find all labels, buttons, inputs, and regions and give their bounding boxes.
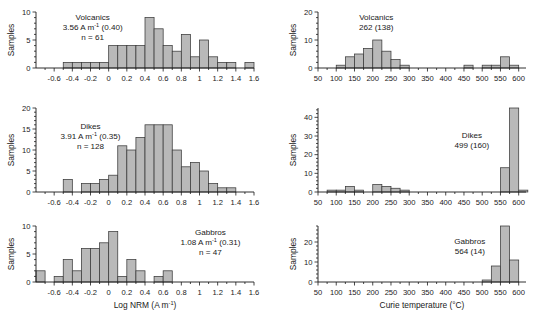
x-tick-label: 550 <box>494 288 507 297</box>
x-tick-label: 1.2 <box>212 74 223 83</box>
histogram-bar <box>72 271 81 282</box>
x-tick-label: 350 <box>421 288 434 297</box>
x-tick-label: 1.6 <box>249 288 260 297</box>
x-tick-label: 1.2 <box>212 288 223 297</box>
histogram-bar <box>63 260 72 282</box>
annotation-mean-value: 1.08 A m-1 (0.31) <box>180 237 240 247</box>
histogram-bar <box>345 57 354 68</box>
histogram-bar <box>109 232 118 282</box>
annotation-rock-type: Gabbros <box>454 237 485 246</box>
x-tick-label: -0.6 <box>48 198 61 207</box>
histogram-bar <box>91 248 100 282</box>
y-tick-label: 10 <box>304 169 312 178</box>
annotation-mean-value: 3.56 A m-1 (0.40) <box>63 22 123 32</box>
y-axis-title: Samples <box>6 24 16 57</box>
histogram-bar <box>100 62 109 68</box>
histogram-bar <box>209 184 218 192</box>
histogram-bar <box>154 125 163 192</box>
histogram-bar <box>181 34 190 68</box>
bars-group <box>336 40 518 68</box>
x-tick-label: -0.4 <box>66 198 79 207</box>
x-tick-label: 600 <box>512 198 525 207</box>
x-tick-label: 550 <box>494 74 507 83</box>
x-tick-label: 100 <box>330 288 343 297</box>
histogram-bar <box>200 40 209 68</box>
histogram-bar <box>145 18 154 68</box>
x-tick-label: 0.4 <box>140 74 151 83</box>
bars-group <box>482 226 518 282</box>
x-tick-label: 0 <box>107 74 111 83</box>
histogram-bar <box>63 62 72 68</box>
bars-group <box>327 108 528 192</box>
x-tick-label: -0.2 <box>84 74 97 83</box>
x-tick-label: 1 <box>197 288 201 297</box>
x-tick-label: 0 <box>107 198 111 207</box>
x-tick-label: 300 <box>403 74 416 83</box>
histogram-bar <box>81 184 90 192</box>
x-axis-title: Log NRM (A m-1) <box>114 300 177 310</box>
x-tick-label: -0.4 <box>66 74 79 83</box>
histogram-bar <box>500 57 509 68</box>
histogram-bar <box>373 40 382 68</box>
panel-annotation: Volcanics262 (138) <box>359 13 394 32</box>
chart-panel-dikes-curie: 0102030405010015020025030035040045050055… <box>288 96 536 222</box>
histogram-bar <box>72 62 81 68</box>
annotation-sample-count: n = 128 <box>77 142 105 151</box>
histogram-bar <box>154 276 163 282</box>
histogram-bar <box>81 62 90 68</box>
x-tick-label: 0.2 <box>122 74 133 83</box>
panel-annotation: Dikes499 (160) <box>455 131 490 150</box>
x-tick-label: -0.6 <box>48 288 61 297</box>
histogram-bar <box>118 46 127 68</box>
bars-group <box>36 232 172 282</box>
histogram-bar <box>36 271 45 282</box>
x-tick-label: 200 <box>366 198 379 207</box>
x-tick-label: 1 <box>197 198 201 207</box>
x-tick-label: 1 <box>197 74 201 83</box>
x-tick-label: -0.4 <box>66 288 79 297</box>
x-tick-label: 0.4 <box>140 198 151 207</box>
histogram-bar <box>163 46 172 68</box>
histogram-bar <box>91 184 100 192</box>
histogram-bar <box>510 108 519 192</box>
y-tick-label: 5 <box>26 250 30 259</box>
x-tick-label: 550 <box>494 198 507 207</box>
histogram-bar <box>136 137 145 192</box>
panel-annotation: Gabbros1.08 A m-1 (0.31)n = 47 <box>180 228 240 257</box>
y-tick-label: 20 <box>304 238 312 247</box>
x-tick-label: 350 <box>421 198 434 207</box>
x-tick-label: -0.6 <box>48 74 61 83</box>
y-tick-label: 30 <box>304 132 312 141</box>
x-tick-label: 0.2 <box>122 198 133 207</box>
x-tick-label: 1.4 <box>231 198 242 207</box>
y-axis-title: Samples <box>288 24 298 57</box>
histogram-bar <box>118 146 127 192</box>
chart-panel-volcanics-nrm: 0510-0.6-0.4-0.200.20.40.60.811.21.41.6S… <box>6 0 264 98</box>
x-tick-label: 200 <box>366 74 379 83</box>
annotation-rock-type: Volcanics <box>359 13 393 22</box>
histogram-bar <box>190 57 199 68</box>
histogram-bar <box>227 62 236 68</box>
x-tick-label: 1.6 <box>249 74 260 83</box>
annotation-rock-type: Volcanics <box>76 13 110 22</box>
histogram-bar <box>181 167 190 192</box>
histogram-bar <box>91 62 100 68</box>
x-tick-label: 300 <box>403 198 416 207</box>
histogram-bar <box>500 226 509 282</box>
y-tick-label: 0 <box>26 64 30 73</box>
y-tick-label: 10 <box>304 258 312 267</box>
axis-lines <box>318 108 526 192</box>
histogram-bar <box>127 150 136 192</box>
histogram-bar <box>109 175 118 192</box>
x-tick-label: 1.4 <box>231 74 242 83</box>
histogram-bar <box>190 163 199 192</box>
chart-panel-dikes-nrm: 05101520-0.6-0.4-0.200.20.40.60.811.21.4… <box>6 96 264 222</box>
x-tick-label: 350 <box>421 74 434 83</box>
y-tick-label: 20 <box>304 150 312 159</box>
x-tick-label: 1.2 <box>212 198 223 207</box>
histogram-bar <box>364 48 373 68</box>
histogram-bar <box>391 188 400 192</box>
histogram-bar <box>227 188 236 192</box>
histogram-bar <box>245 62 254 68</box>
histogram-bar <box>81 248 90 282</box>
